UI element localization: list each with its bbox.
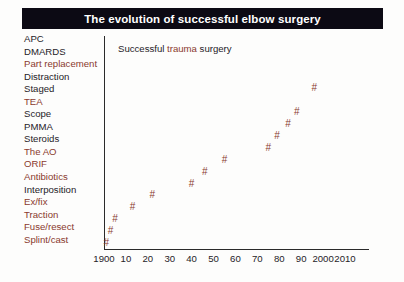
procedure-label: Staged [24, 83, 102, 96]
procedure-label: Steroids [24, 133, 102, 146]
procedure-label: Interposition [24, 184, 102, 197]
data-point-marker: # [202, 167, 208, 177]
data-point-marker: # [130, 202, 136, 212]
data-point-marker: # [266, 143, 272, 153]
procedure-label: ORIF [24, 158, 102, 171]
slide-title-bar: The evolution of successful elbow surger… [22, 8, 383, 29]
annotation-prefix: Successful [118, 43, 167, 54]
procedure-label: APC [24, 33, 102, 46]
data-point-marker: # [222, 155, 228, 165]
x-axis-tick-label: 2010 [334, 253, 355, 264]
page-title: The evolution of successful elbow surger… [84, 13, 321, 25]
x-axis-tick-label: 20 [142, 253, 153, 264]
x-axis-tick-label: 1900 [93, 253, 114, 264]
data-point-marker: # [108, 226, 114, 236]
procedure-label: The AO [24, 146, 102, 159]
procedure-label: Traction [24, 209, 102, 222]
slide-canvas: The evolution of successful elbow surger… [0, 0, 404, 282]
chart-plot-area: Successful trauma surgery ############# [104, 36, 370, 252]
x-axis-line [104, 249, 369, 250]
y-axis-line [104, 36, 105, 250]
x-axis-tick-label: 90 [296, 253, 307, 264]
procedure-label: Ex/fix [24, 196, 102, 209]
x-axis-tick-label: 40 [186, 253, 197, 264]
procedure-label: Fuse/resect [24, 221, 102, 234]
procedure-label: Splint/cast [24, 234, 102, 247]
x-axis-tick-label: 50 [208, 253, 219, 264]
data-point-marker: # [312, 83, 318, 93]
data-point-marker: # [189, 179, 195, 189]
procedure-label: Antibiotics [24, 171, 102, 184]
procedure-label-column: APCDMARDSPart replacementDistractionStag… [24, 33, 102, 246]
procedure-label: Distraction [24, 71, 102, 84]
annotation-suffix: surgery [197, 43, 232, 54]
annotation-highlight: trauma [167, 43, 197, 54]
x-axis-tick-label: 80 [274, 253, 285, 264]
data-point-marker: # [112, 214, 118, 224]
data-point-marker: # [103, 238, 109, 248]
procedure-label: Part replacement [24, 58, 102, 71]
procedure-label: Scope [24, 108, 102, 121]
x-axis-tick-label: 10 [121, 253, 132, 264]
data-point-marker: # [149, 190, 155, 200]
procedure-label: PMMA [24, 121, 102, 134]
x-axis-tick-label: 70 [252, 253, 263, 264]
x-axis-tick-labels: 190010203040506070809020002010 [104, 253, 394, 267]
data-point-marker: # [285, 119, 291, 129]
procedure-label: DMARDS [24, 46, 102, 59]
data-point-marker: # [274, 131, 280, 141]
plot-annotation: Successful trauma surgery [118, 43, 232, 54]
data-point-marker: # [294, 107, 300, 117]
procedure-label: TEA [24, 96, 102, 109]
x-axis-tick-label: 2000 [312, 253, 333, 264]
x-axis-tick-label: 60 [230, 253, 241, 264]
x-axis-tick-label: 30 [164, 253, 175, 264]
